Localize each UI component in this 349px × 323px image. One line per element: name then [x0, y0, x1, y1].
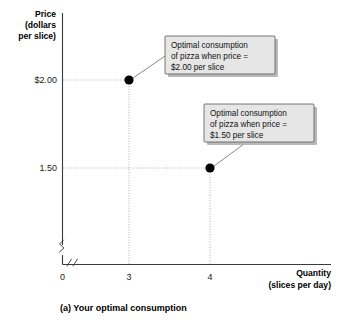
x-tick-label-3: 3: [126, 272, 131, 282]
callout-1-50-line-1: Optimal consumption: [210, 109, 287, 118]
callout-2-00-line-1: Optimal consumption: [171, 41, 248, 50]
figure-caption: (a) Your optimal consumption: [60, 303, 187, 313]
x-tick-label-0: 0: [60, 272, 65, 282]
callout-2-00-line-2: of pizza when price =: [171, 52, 248, 61]
y-axis-label-line-2: (dollars: [25, 20, 56, 30]
callout-2-00[interactable]: Optimal consumption of pizza when price …: [165, 36, 278, 77]
y-axis-label-line-3: per slice): [18, 31, 56, 41]
x-axis-label: Quantity: [296, 268, 331, 278]
x-tick-label-4: 4: [207, 272, 212, 282]
y-tick-label-2-00: $2.00: [34, 75, 57, 85]
callout-2-00-line-3: $2.00 per slice: [171, 63, 225, 72]
x-axis-label-sub: (slices per day): [268, 280, 331, 290]
data-point-4-1-50[interactable]: [205, 163, 214, 172]
data-point-3-2-00[interactable]: [124, 75, 133, 84]
y-tick-label-1-50: 1.50: [39, 163, 57, 173]
y-axis-label-line-1: Price: [35, 9, 56, 19]
figure-optimal-consumption: Price (dollars per slice) $2.00 1.50 0 3…: [0, 0, 349, 323]
callout-1-50-line-3: $1.50 per slice: [210, 131, 264, 140]
callout-1-50-line-2: of pizza when price =: [210, 120, 287, 129]
callout-1-50[interactable]: Optimal consumption of pizza when price …: [204, 104, 317, 145]
